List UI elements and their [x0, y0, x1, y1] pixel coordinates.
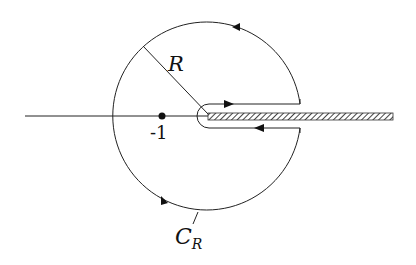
point-minus-one: [159, 113, 166, 120]
arrow-top-icon: [232, 23, 240, 31]
arrow-lower-cut-icon: [254, 124, 264, 132]
point-label: -1: [150, 122, 168, 143]
cr-pointer-line: [193, 212, 198, 224]
radius-label: R: [168, 52, 184, 76]
arrow-upper-cut-icon: [224, 100, 234, 108]
contour-label: CR: [175, 224, 202, 252]
arrow-bottom-icon: [161, 196, 168, 205]
keyhole-contour-diagram: [0, 0, 416, 265]
branch-cut: [208, 113, 393, 120]
